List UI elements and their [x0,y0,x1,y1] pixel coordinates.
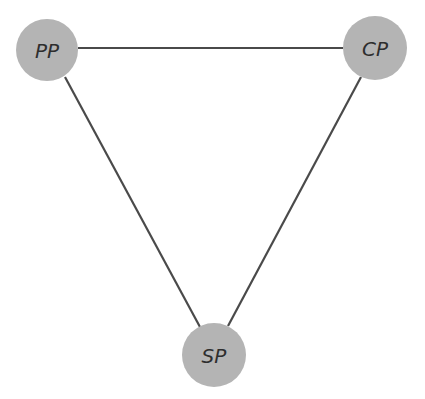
node-sp: SP [182,323,246,387]
triangle-diagram: PP CP SP [0,0,425,399]
edge-cp-sp [228,77,361,326]
node-pp: PP [16,19,78,81]
edges [65,48,361,327]
node-cp: CP [343,16,407,80]
edge-pp-sp [65,77,200,327]
node-cp-label: CP [362,37,389,61]
node-pp-label: PP [35,39,60,63]
node-sp-label: SP [202,344,228,368]
